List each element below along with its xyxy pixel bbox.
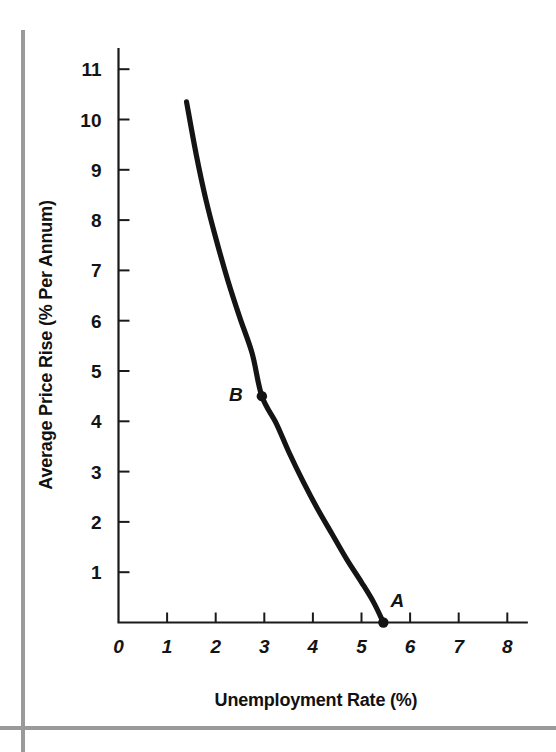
data-point-label-b: B	[229, 384, 243, 405]
y-tick-label: 2	[91, 512, 102, 533]
chart-axes	[119, 49, 527, 622]
data-point-marker-a	[378, 617, 388, 627]
x-axis-title: Unemployment Rate (%)	[215, 690, 418, 710]
x-tick-label: 7	[453, 636, 465, 657]
phillips-curve-line	[187, 102, 384, 623]
y-axis-title: Average Price Rise (% Per Annum)	[36, 200, 56, 490]
x-tick-label: 1	[162, 636, 173, 657]
y-tick-label: 9	[91, 160, 102, 181]
y-tick-label: 4	[91, 411, 102, 432]
y-tick-label: 11	[81, 59, 102, 80]
x-tick-label: 8	[502, 636, 513, 657]
y-tick-label: 5	[91, 361, 102, 382]
x-axis-tick-labels: 012345678	[113, 636, 513, 657]
x-tick-label: 4	[307, 636, 319, 657]
y-axis-tick-labels: 1234567891011	[80, 59, 102, 583]
data-point-label-a: A	[390, 590, 405, 611]
y-tick-label: 3	[91, 462, 102, 483]
x-axis-ticks	[167, 613, 507, 623]
x-tick-label: 6	[405, 636, 416, 657]
y-tick-label: 10	[80, 110, 101, 131]
data-point-marker-b	[257, 391, 267, 401]
x-tick-label: 5	[356, 636, 367, 657]
y-tick-label: 6	[91, 311, 102, 332]
chart-page: 012345678 1234567891011 AB Unemployment …	[0, 0, 556, 752]
y-tick-label: 8	[91, 210, 102, 231]
x-tick-label: 0	[113, 636, 124, 657]
y-axis-ticks	[119, 69, 130, 572]
x-tick-label: 3	[259, 636, 270, 657]
y-tick-label: 7	[91, 260, 102, 281]
y-tick-label: 1	[91, 562, 102, 583]
phillips-curve-chart: 012345678 1234567891011 AB Unemployment …	[0, 0, 556, 752]
x-tick-label: 2	[209, 636, 221, 657]
